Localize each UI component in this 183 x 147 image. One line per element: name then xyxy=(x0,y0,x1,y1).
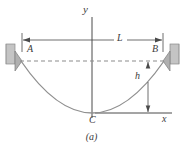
x-axis-label: x xyxy=(162,114,166,124)
sag-label: h xyxy=(134,71,141,81)
left-support-label: A xyxy=(27,44,33,54)
y-axis-label: y xyxy=(83,4,88,15)
cable-diagram-figure: y L A B h C x (a) xyxy=(0,0,183,147)
figure-caption: (a) xyxy=(0,131,183,142)
right-support xyxy=(163,44,179,71)
right-support-label: B xyxy=(152,44,158,54)
lowest-point-label: C xyxy=(89,115,96,125)
sag-dimension xyxy=(146,62,151,112)
right-pin-bracket xyxy=(163,51,170,71)
right-wall-block xyxy=(170,44,179,64)
left-wall-block xyxy=(6,44,15,64)
span-label: L xyxy=(116,33,124,43)
left-support xyxy=(6,44,22,71)
